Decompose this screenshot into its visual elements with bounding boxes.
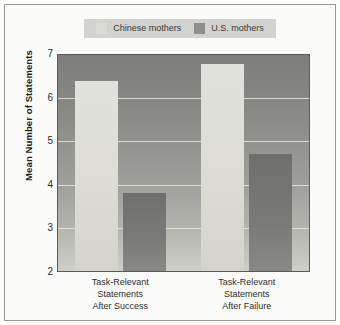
- x-label-success-line2: Statements: [57, 288, 184, 300]
- y-tick-7: 7: [35, 49, 53, 59]
- legend-label-chinese: Chinese mothers: [113, 24, 181, 33]
- y-tick-3: 3: [35, 223, 53, 233]
- x-label-failure-line2: Statements: [184, 288, 311, 300]
- figure: Chinese mothers U.S. mothers Mean Number…: [0, 0, 340, 325]
- y-tick-6: 6: [35, 93, 53, 103]
- legend-label-us: U.S. mothers: [211, 24, 264, 33]
- x-label-group-failure: Task-Relevant Statements After Failure: [184, 276, 311, 312]
- y-tick-2: 2: [35, 267, 53, 277]
- x-axis-labels: Task-Relevant Statements After Success T…: [57, 276, 310, 312]
- y-tick-4: 4: [35, 180, 53, 190]
- bar-chinese-success: [75, 81, 118, 271]
- x-label-failure-line3: After Failure: [184, 300, 311, 312]
- chart-legend: Chinese mothers U.S. mothers: [84, 19, 276, 38]
- x-label-success-line1: Task-Relevant: [57, 276, 184, 288]
- x-label-success-line3: After Success: [57, 300, 184, 312]
- x-label-failure-line1: Task-Relevant: [184, 276, 311, 288]
- y-tick-5: 5: [35, 136, 53, 146]
- chinese-swatch-icon: [96, 23, 107, 34]
- y-axis-ticks: 7 6 5 4 3 2: [31, 54, 53, 272]
- bar-us-success: [123, 193, 166, 271]
- us-swatch-icon: [194, 23, 205, 34]
- bar-us-failure: [249, 154, 292, 271]
- legend-entry-chinese: Chinese mothers: [96, 23, 181, 34]
- bar-chinese-failure: [201, 64, 244, 271]
- plot-area: [57, 54, 310, 272]
- x-label-group-success: Task-Relevant Statements After Success: [57, 276, 184, 312]
- legend-entry-us: U.S. mothers: [194, 23, 264, 34]
